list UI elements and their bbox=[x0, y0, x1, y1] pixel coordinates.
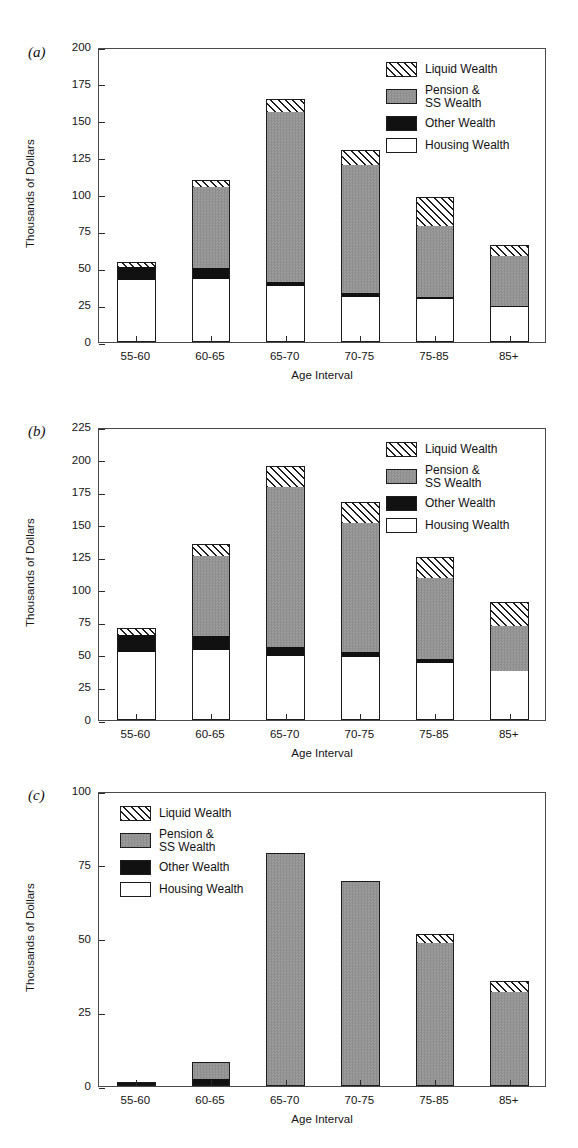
bar-segment[interactable] bbox=[416, 943, 455, 1086]
bar-group[interactable] bbox=[192, 47, 231, 342]
stacked-bar[interactable] bbox=[266, 47, 305, 342]
legend-item-label: Liquid Wealth bbox=[159, 807, 232, 820]
stacked-bar[interactable] bbox=[192, 427, 231, 720]
bar-group[interactable] bbox=[117, 47, 156, 342]
legend-item-liquid[interactable]: Liquid Wealth bbox=[386, 442, 510, 457]
bar-segment[interactable] bbox=[117, 262, 156, 266]
panel-c-x-axis-label: Age Interval bbox=[98, 1113, 546, 1125]
bar-group[interactable] bbox=[192, 427, 231, 720]
stacked-bar[interactable] bbox=[266, 791, 305, 1086]
x-axis-tick bbox=[435, 336, 436, 342]
bar-group[interactable] bbox=[266, 791, 305, 1086]
bar-segment[interactable] bbox=[192, 1062, 231, 1078]
bar-segment[interactable] bbox=[192, 544, 231, 556]
housing-swatch-icon bbox=[120, 882, 151, 897]
stacked-bar[interactable] bbox=[341, 47, 380, 342]
x-axis-tick bbox=[136, 336, 137, 342]
bar-segment[interactable] bbox=[490, 671, 529, 720]
bar-segment[interactable] bbox=[192, 187, 231, 268]
bar-segment[interactable] bbox=[490, 981, 529, 991]
bar-segment[interactable] bbox=[192, 279, 231, 342]
stacked-bar[interactable] bbox=[117, 427, 156, 720]
legend-item-housing[interactable]: Housing Wealth bbox=[386, 138, 510, 153]
bar-segment[interactable] bbox=[341, 502, 380, 523]
legend-item-housing[interactable]: Housing Wealth bbox=[386, 518, 510, 533]
bar-segment[interactable] bbox=[266, 286, 305, 342]
bar-segment[interactable] bbox=[341, 165, 380, 293]
stacked-bar[interactable] bbox=[117, 47, 156, 342]
bar-segment[interactable] bbox=[416, 197, 455, 226]
bar-segment[interactable] bbox=[416, 557, 455, 578]
legend-item-other[interactable]: Other Wealth bbox=[386, 116, 510, 131]
y-tick-label: 125 bbox=[72, 551, 91, 563]
bar-segment[interactable] bbox=[416, 663, 455, 720]
legend-item-pension[interactable]: Pension & SS Wealth bbox=[120, 828, 244, 853]
x-tick-label: 65-70 bbox=[245, 1094, 325, 1106]
bar-segment[interactable] bbox=[266, 99, 305, 112]
bar-segment[interactable] bbox=[490, 306, 529, 308]
bar-segment[interactable] bbox=[416, 659, 455, 663]
bar-segment[interactable] bbox=[266, 647, 305, 655]
x-tick-label: 85+ bbox=[469, 728, 549, 740]
bar-segment[interactable] bbox=[341, 652, 380, 657]
bar-segment[interactable] bbox=[192, 180, 231, 187]
bar-group[interactable] bbox=[341, 791, 380, 1086]
bar-group[interactable] bbox=[266, 427, 305, 720]
bar-segment[interactable] bbox=[266, 112, 305, 282]
bar-segment[interactable] bbox=[117, 628, 156, 636]
bar-segment[interactable] bbox=[266, 487, 305, 647]
stacked-bar[interactable] bbox=[266, 427, 305, 720]
bar-segment[interactable] bbox=[416, 297, 455, 299]
bar-segment[interactable] bbox=[341, 293, 380, 297]
legend-item-other[interactable]: Other Wealth bbox=[386, 496, 510, 511]
other-swatch-icon bbox=[386, 496, 417, 511]
stacked-bar[interactable] bbox=[341, 427, 380, 720]
bar-group[interactable] bbox=[341, 47, 380, 342]
bar-group[interactable] bbox=[117, 427, 156, 720]
legend-item-liquid[interactable]: Liquid Wealth bbox=[120, 806, 244, 821]
bar-segment[interactable] bbox=[117, 635, 156, 652]
legend-item-pension[interactable]: Pension & SS Wealth bbox=[386, 464, 510, 489]
bar-segment[interactable] bbox=[117, 267, 156, 280]
bar-segment[interactable] bbox=[192, 636, 231, 650]
bar-segment[interactable] bbox=[192, 268, 231, 278]
bar-segment[interactable] bbox=[117, 652, 156, 720]
x-axis-tick bbox=[211, 1080, 212, 1086]
bar-segment[interactable] bbox=[266, 853, 305, 1086]
liquid-swatch-icon bbox=[386, 442, 417, 457]
bar-segment[interactable] bbox=[266, 282, 305, 286]
x-axis-tick bbox=[360, 1080, 361, 1086]
legend-item-pension[interactable]: Pension & SS Wealth bbox=[386, 84, 510, 109]
bar-segment[interactable] bbox=[192, 556, 231, 636]
stacked-bar[interactable] bbox=[416, 791, 455, 1086]
legend-item-other[interactable]: Other Wealth bbox=[120, 860, 244, 875]
bar-segment[interactable] bbox=[341, 657, 380, 720]
bar-group[interactable] bbox=[266, 47, 305, 342]
bar-segment[interactable] bbox=[192, 650, 231, 720]
stacked-bar[interactable] bbox=[192, 47, 231, 342]
legend-item-liquid[interactable]: Liquid Wealth bbox=[386, 62, 510, 77]
bar-segment[interactable] bbox=[416, 226, 455, 297]
stacked-bar[interactable] bbox=[341, 791, 380, 1086]
bar-segment[interactable] bbox=[341, 881, 380, 1086]
bar-segment[interactable] bbox=[266, 656, 305, 720]
stacked-bar[interactable] bbox=[490, 791, 529, 1086]
bar-segment[interactable] bbox=[490, 992, 529, 1086]
bar-segment[interactable] bbox=[490, 245, 529, 255]
bar-segment[interactable] bbox=[490, 626, 529, 670]
bar-segment[interactable] bbox=[490, 256, 529, 306]
x-tick-label: 75-85 bbox=[394, 728, 474, 740]
y-tick-mark bbox=[99, 591, 105, 592]
bar-segment[interactable] bbox=[341, 150, 380, 165]
bar-group[interactable] bbox=[490, 791, 529, 1086]
bar-segment[interactable] bbox=[416, 934, 455, 943]
y-tick-mark bbox=[99, 233, 105, 234]
legend-item-housing[interactable]: Housing Wealth bbox=[120, 882, 244, 897]
bar-segment[interactable] bbox=[490, 602, 529, 627]
bar-segment[interactable] bbox=[117, 280, 156, 342]
bar-segment[interactable] bbox=[341, 523, 380, 652]
bar-group[interactable] bbox=[341, 427, 380, 720]
bar-group[interactable] bbox=[416, 791, 455, 1086]
bar-segment[interactable] bbox=[416, 578, 455, 659]
bar-segment[interactable] bbox=[266, 466, 305, 487]
